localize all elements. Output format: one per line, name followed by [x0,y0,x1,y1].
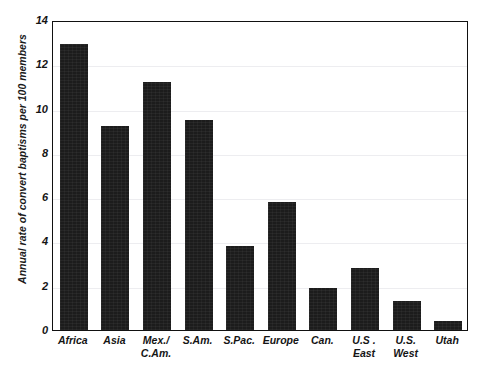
y-axis-tick-label: 8 [22,148,48,159]
bar [351,268,379,330]
y-axis-tick-label: 2 [22,281,48,292]
bars-layer [53,22,467,330]
bar [143,82,171,330]
y-axis-tick-label: 12 [22,59,48,70]
chart-title [0,0,483,5]
y-axis-tick-label: 14 [22,15,48,26]
bar-chart-figure: Annual rate of convert baptisms per 100 … [0,0,483,375]
y-axis-tick-label: 0 [22,325,48,336]
bar [268,202,296,330]
y-axis-tick-label: 6 [22,192,48,203]
bar [185,120,213,330]
bar [393,301,421,330]
y-axis-tick-label: 10 [22,104,48,115]
x-axis-tick-label: Utah [422,334,472,347]
bar [434,321,462,330]
bar [101,126,129,330]
y-axis-tick-labels: 02468101214 [22,0,48,375]
bar [226,246,254,330]
bar [309,288,337,330]
bar [60,44,88,330]
plot-area [52,21,468,331]
y-axis-tick-label: 4 [22,236,48,247]
x-axis-tick-labels: AfricaAsiaMex./ C.Am.S.Am.S.Pac.EuropeCa… [52,334,468,374]
